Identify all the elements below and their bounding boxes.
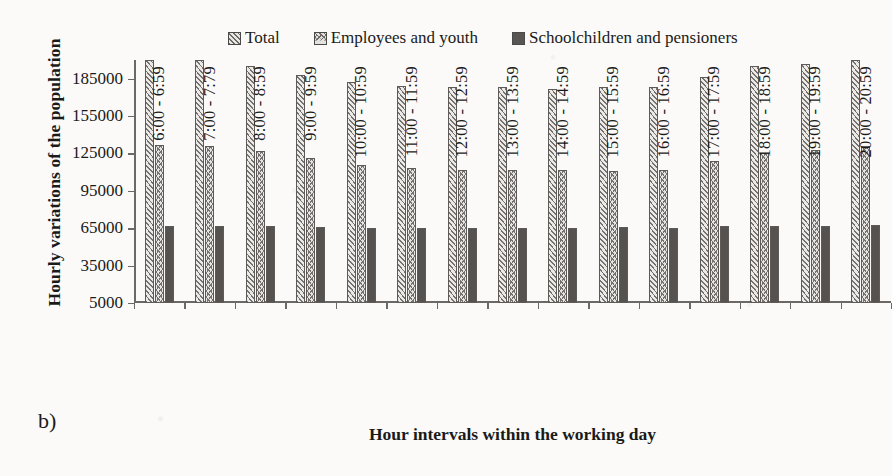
y-axis-tick-label: 125000 <box>72 143 123 163</box>
x-axis-tick <box>790 303 791 309</box>
bar-employees-and-youth <box>760 153 769 303</box>
bar-employees-and-youth <box>205 146 214 303</box>
x-axis-tick <box>740 303 741 309</box>
x-axis-tick-label: 17:00 - 17:59 <box>704 66 724 158</box>
x-axis-tick <box>134 303 135 309</box>
bar-employees-and-youth <box>256 151 265 303</box>
y-axis-tick-label: 65000 <box>81 218 124 238</box>
diagonal-hatch-swatch <box>228 32 241 45</box>
bar-schoolchildren-and-pensioners <box>821 226 830 303</box>
y-axis-tick-label: 35000 <box>81 255 124 275</box>
x-axis-tick-label: 19:00 - 19:59 <box>805 66 825 158</box>
x-axis-tick-label: 7:00 - 7:79 <box>200 66 220 141</box>
x-axis-tick-label: 11:00 - 11:59 <box>402 66 422 156</box>
bar-schoolchildren-and-pensioners <box>215 226 224 303</box>
y-axis-tick-label: 5000 <box>89 293 123 313</box>
x-axis-tick-label: 18:00 - 18:59 <box>755 66 775 158</box>
x-axis-tick-label: 16:00 - 16:59 <box>654 66 674 158</box>
bar-schoolchildren-and-pensioners <box>871 225 880 304</box>
x-axis-tick-label: 13:00 - 13:59 <box>503 66 523 158</box>
bar-schoolchildren-and-pensioners <box>316 227 325 303</box>
bar-employees-and-youth <box>155 145 164 303</box>
bar-schoolchildren-and-pensioners <box>518 228 527 303</box>
x-axis-tick <box>235 303 236 309</box>
legend-label: Schoolchildren and pensioners <box>529 28 738 48</box>
bar-employees-and-youth <box>407 168 416 303</box>
bar-schoolchildren-and-pensioners <box>669 228 678 303</box>
x-axis-tick-label: 10:00 - 10:59 <box>351 66 371 158</box>
x-axis-tick <box>841 303 842 309</box>
chart-legend: TotalEmployees and youthSchoolchildren a… <box>228 28 738 48</box>
legend-label: Total <box>245 28 280 48</box>
bar-schoolchildren-and-pensioners <box>367 228 376 303</box>
x-axis-tick-label: 12:00 - 12:59 <box>452 66 472 158</box>
x-axis-tick <box>437 303 438 309</box>
bar-schoolchildren-and-pensioners <box>165 226 174 303</box>
legend-item-3: Schoolchildren and pensioners <box>512 28 738 48</box>
x-axis-tick <box>336 303 337 309</box>
x-axis-tick <box>386 303 387 309</box>
panel-letter: b) <box>38 408 56 434</box>
bar-employees-and-youth <box>659 170 668 303</box>
bar-schoolchildren-and-pensioners <box>619 227 628 303</box>
x-axis-tick-label: 8:00 - 8:59 <box>250 66 270 141</box>
x-axis-tick <box>285 303 286 309</box>
x-axis-tick <box>588 303 589 309</box>
x-axis-tick <box>487 303 488 309</box>
bar-employees-and-youth <box>306 158 315 303</box>
x-axis-title: Hour intervals within the working day <box>134 424 891 445</box>
bar-employees-and-youth <box>458 170 467 303</box>
chevron-hatch-swatch <box>314 32 327 45</box>
x-axis-tick-label: 6:00 - 6:59 <box>149 66 169 141</box>
bar-schoolchildren-and-pensioners <box>568 228 577 303</box>
bar-schoolchildren-and-pensioners <box>468 228 477 303</box>
plot-area: 50003500065000950001250001550001850006:0… <box>134 60 891 303</box>
x-axis-tick <box>639 303 640 309</box>
bar-employees-and-youth <box>609 171 618 303</box>
bar-schoolchildren-and-pensioners <box>417 228 426 303</box>
legend-label: Employees and youth <box>331 28 478 48</box>
x-axis-tick <box>184 303 185 309</box>
bar-schoolchildren-and-pensioners <box>770 226 779 303</box>
x-axis-tick <box>689 303 690 309</box>
bar-employees-and-youth <box>357 165 366 303</box>
x-axis-tick-label: 15:00 - 15:59 <box>603 66 623 158</box>
y-axis-tick-label: 95000 <box>81 180 124 200</box>
legend-item-2: Employees and youth <box>314 28 478 48</box>
bar-schoolchildren-and-pensioners <box>266 226 275 303</box>
x-axis-tick-label: 14:00 - 14:59 <box>553 66 573 158</box>
bar-employees-and-youth <box>558 170 567 303</box>
x-axis-tick <box>538 303 539 309</box>
y-axis-title: Hourly variations of the population <box>44 23 65 323</box>
x-axis-tick-label: 20:00 - 20:59 <box>856 66 876 158</box>
legend-item-1: Total <box>228 28 280 48</box>
y-axis-tick-label: 155000 <box>72 106 123 126</box>
y-axis-tick-label: 185000 <box>72 68 123 88</box>
solid-dark-swatch <box>512 32 525 45</box>
bar-employees-and-youth <box>710 161 719 303</box>
bar-employees-and-youth <box>508 170 517 303</box>
bar-schoolchildren-and-pensioners <box>720 226 729 303</box>
bar-employees-and-youth <box>861 146 870 303</box>
chart-figure: Hourly variations of the population Tota… <box>0 0 892 476</box>
x-axis-tick-label: 9:00 - 9:59 <box>301 66 321 141</box>
bar-employees-and-youth <box>811 150 820 303</box>
